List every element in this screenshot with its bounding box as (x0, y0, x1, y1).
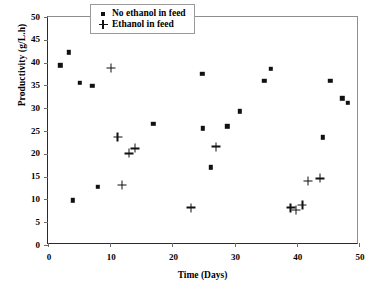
y-tick-label: 30 (31, 103, 40, 113)
y-tick-label: 20 (31, 148, 40, 158)
legend-plus-icon (96, 19, 112, 30)
data-point-plus (113, 132, 122, 141)
y-tick: 10 (44, 199, 48, 200)
y-tick-label: 50 (31, 12, 40, 22)
data-point-plus (298, 200, 307, 209)
data-point-square (225, 124, 229, 128)
y-tick-label: 40 (31, 57, 40, 67)
data-point-square (209, 165, 213, 169)
y-tick: 50 (44, 17, 48, 18)
y-tick: 5 (44, 222, 48, 223)
legend-item-label: Ethanol in feed (112, 19, 174, 30)
data-point-square (321, 135, 325, 139)
data-point-square (340, 96, 344, 100)
y-tick: 25 (44, 131, 48, 132)
legend-item-label: No ethanol in feed (112, 8, 186, 19)
legend-item: No ethanol in feed (96, 8, 186, 19)
data-point-plus (303, 177, 312, 186)
data-point-square (151, 122, 155, 126)
y-tick: 20 (44, 154, 48, 155)
x-tick-label: 50 (348, 252, 372, 262)
data-point-square (66, 50, 70, 54)
data-point-square (262, 79, 266, 83)
data-point-square (346, 101, 350, 105)
data-point-square (268, 67, 272, 71)
y-tick: 45 (44, 40, 48, 41)
legend-item: Ethanol in feed (96, 19, 186, 30)
x-tick: 0 (48, 243, 49, 247)
data-point-plus (131, 144, 140, 153)
data-point-plus (315, 174, 324, 183)
data-point-square (200, 71, 204, 75)
y-tick: 30 (44, 108, 48, 109)
data-point-plus (211, 142, 220, 151)
y-tick: 40 (44, 63, 48, 64)
data-point-square (201, 126, 205, 130)
legend-square-glyph (101, 12, 105, 16)
chart-legend: No ethanol in feedEthanol in feed (90, 4, 195, 34)
data-point-square (328, 79, 332, 83)
data-point-plus (118, 181, 127, 190)
x-tick: 20 (172, 243, 173, 247)
scatter-chart-figure: Productivity (g/L.h) Time (Days) 0510152… (0, 0, 378, 290)
x-axis-title: Time (Days) (47, 270, 358, 280)
x-tick: 10 (110, 243, 111, 247)
x-tick-label: 10 (99, 252, 123, 262)
y-tick-label: 10 (31, 194, 40, 204)
x-tick: 40 (297, 243, 298, 247)
x-tick-label: 20 (161, 252, 185, 262)
y-tick-label: 25 (31, 126, 40, 136)
x-tick-label: 30 (224, 252, 248, 262)
y-tick-label: 5 (36, 217, 41, 227)
y-tick-label: 0 (36, 240, 41, 250)
x-tick: 50 (359, 243, 360, 247)
y-tick-label: 35 (31, 80, 40, 90)
y-tick-label: 45 (31, 34, 40, 44)
data-point-square (71, 198, 75, 202)
y-tick: 15 (44, 177, 48, 178)
y-axis-title: Productivity (g/L.h) (17, 0, 27, 145)
x-tick-label: 40 (286, 252, 310, 262)
plot-area: 05101520253035404550 01020304050 (47, 16, 358, 244)
data-point-square (58, 63, 62, 67)
y-tick: 35 (44, 85, 48, 86)
data-point-square (237, 109, 241, 113)
data-point-square (90, 84, 94, 88)
data-point-square (96, 184, 100, 188)
x-tick-label: 0 (37, 252, 61, 262)
y-tick-label: 15 (31, 171, 40, 181)
x-tick: 30 (235, 243, 236, 247)
legend-square-icon (96, 8, 112, 19)
data-point-plus (187, 203, 196, 212)
data-point-plus (106, 64, 115, 73)
data-point-square (78, 80, 82, 84)
